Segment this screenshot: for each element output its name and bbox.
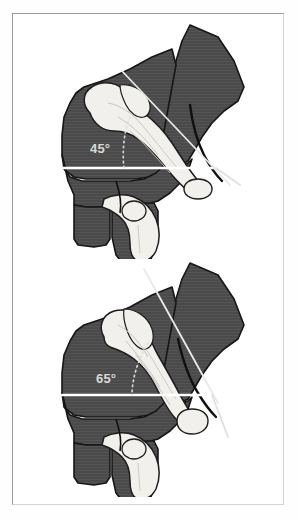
femoral-condyle [184,179,212,199]
iliac-wing-mass [162,25,244,165]
posterior-thigh-flap [74,205,110,247]
knee-joint [122,439,146,459]
iliac-wing-mass [162,263,244,403]
figure-stack: 45° [12,13,284,505]
pelvis-mass [62,287,176,417]
anatomy-illustration-45: 45° [12,13,284,259]
angle-label-45: 45° [90,141,110,156]
figure-page: 45° [0,0,298,520]
anatomy-illustration-65: 65° [12,251,284,497]
anatomy-panel-upper: 45° [12,13,284,259]
knee-joint [122,201,146,221]
anatomy-panel-lower: 65° [12,251,284,497]
posterior-thigh-flap [74,443,110,485]
angle-label-65: 65° [96,371,116,386]
femoral-condyle [177,409,208,434]
